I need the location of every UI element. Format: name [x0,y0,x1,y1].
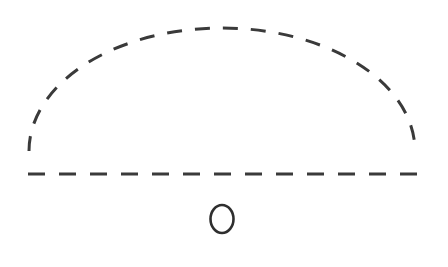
canvas-background [0,0,448,267]
dashed-arc-diagram [0,0,448,267]
figure-canvas [0,0,448,267]
